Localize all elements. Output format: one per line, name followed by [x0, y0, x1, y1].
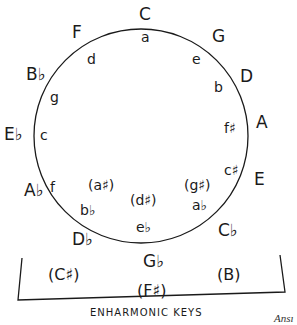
- major-key-db: D♭: [72, 229, 93, 249]
- major-key-f: F: [72, 22, 82, 42]
- major-key-cb: C♭: [218, 220, 238, 240]
- major-key-a: A: [256, 112, 268, 132]
- enharmonic-major-key-fsharp: (F♯): [137, 281, 166, 300]
- major-key-d: D: [240, 66, 253, 86]
- minor-key-f: f: [50, 179, 56, 195]
- minor-key-fsharp: f♯: [224, 120, 236, 136]
- minor-key-b: b: [214, 79, 223, 95]
- major-key-bb: B♭: [26, 64, 46, 84]
- enharmonic-minor-key-asharp: (a♯): [88, 177, 114, 193]
- circle-of-fifths-diagram: CGDAEC♭G♭D♭A♭E♭B♭F aebf♯c♯a♭e♭b♭fcgd (a♯…: [0, 0, 297, 325]
- minor-key-c: c: [40, 127, 48, 143]
- major-key-ab: A♭: [24, 180, 44, 200]
- minor-key-bb: b♭: [80, 202, 96, 218]
- minor-key-eb: e♭: [136, 219, 151, 235]
- minor-key-d: d: [87, 51, 96, 67]
- key-circle: [34, 29, 248, 243]
- minor-key-ab: a♭: [192, 197, 207, 213]
- major-key-c: C: [139, 4, 151, 24]
- major-key-g: G: [212, 26, 225, 46]
- minor-key-e: e: [192, 51, 201, 67]
- enharmonic-keys-label: ENHARMONIC KEYS: [90, 307, 203, 318]
- enharmonic-major-key-b: (B): [217, 265, 240, 284]
- minor-key-g: g: [50, 89, 59, 105]
- enharmonic-minor-key-dsharp: (d♯): [130, 192, 157, 208]
- major-key-eb: E♭: [4, 124, 23, 144]
- major-key-e: E: [254, 169, 265, 189]
- figure-caption: Ansı: [273, 312, 294, 324]
- major-key-gb: G♭: [143, 251, 164, 271]
- minor-key-csharp: c♯: [224, 162, 238, 178]
- minor-key-a: a: [141, 29, 150, 45]
- enharmonic-major-key-csharp: (C♯): [48, 265, 79, 284]
- enharmonic-minor-key-gsharp: (g♯): [184, 177, 211, 193]
